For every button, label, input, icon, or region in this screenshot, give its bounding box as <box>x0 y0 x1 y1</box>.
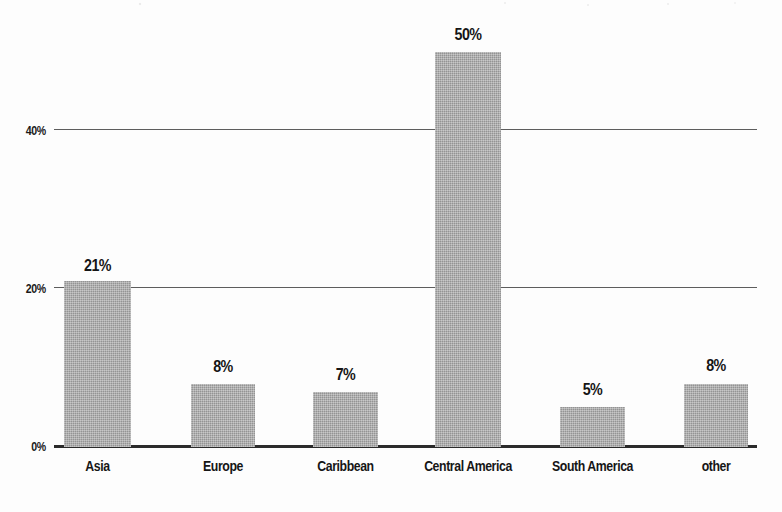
y-tick-label-0: 0% <box>0 440 46 454</box>
bar-asia[interactable] <box>64 281 131 447</box>
y-tick-label-20: 20% <box>0 282 46 296</box>
bar-caribbean[interactable] <box>313 392 378 447</box>
bar-other[interactable] <box>684 384 748 447</box>
bar-south-america[interactable] <box>560 407 625 447</box>
value-label-europe: 8% <box>196 358 250 375</box>
bar-chart: 40% 20% 0% 21% 8% 7% 50% 5% 8% Asia Euro… <box>0 0 782 512</box>
value-label-central-america: 50% <box>440 26 495 43</box>
value-label-asia: 21% <box>69 257 125 274</box>
category-label-caribbean: Caribbean <box>305 458 386 473</box>
value-label-caribbean: 7% <box>318 366 373 383</box>
scan-noise-artifact <box>0 0 782 14</box>
category-label-south-america: South America <box>545 458 639 473</box>
category-label-asia: Asia <box>62 458 133 473</box>
bar-europe[interactable] <box>191 384 255 447</box>
axis-baseline <box>54 445 757 448</box>
category-label-central-america: Central America <box>419 458 517 473</box>
bar-central-america[interactable] <box>435 52 501 447</box>
plot-area <box>54 18 757 447</box>
value-label-south-america: 5% <box>565 381 620 398</box>
gridline-20 <box>54 287 757 288</box>
gridline-40 <box>54 129 757 130</box>
y-tick-label-40: 40% <box>0 124 46 138</box>
value-label-other: 8% <box>689 357 743 374</box>
category-label-europe: Europe <box>187 458 259 473</box>
category-label-other: other <box>681 458 752 473</box>
